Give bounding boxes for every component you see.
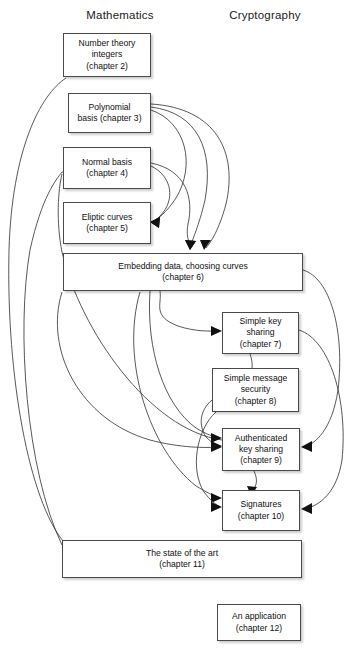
arrow-head-icon bbox=[301, 503, 312, 514]
node-label-ch8: Simple message security (chapter 8) bbox=[224, 373, 288, 407]
node-label-ch3: Polynomial basis (chapter 3) bbox=[77, 102, 141, 124]
node-label-ch9: Authenticated key sharing (chapter 9) bbox=[235, 433, 288, 467]
edge-ch7-to-ch10 bbox=[299, 330, 343, 514]
node-box-ch11[interactable]: The state of the art (chapter 11) bbox=[62, 540, 302, 578]
arrow-head-icon bbox=[185, 240, 196, 250]
node-box-ch10[interactable]: Signatures (chapter 10) bbox=[222, 490, 300, 531]
arrow-head-icon bbox=[211, 326, 222, 336]
node-box-ch2[interactable]: Number theory integers (chapter 2) bbox=[63, 33, 151, 77]
node-label-ch12: An application (chapter 12) bbox=[232, 611, 286, 633]
arrow-head-icon bbox=[211, 433, 222, 443]
edge-ch4-to-ch6 bbox=[151, 163, 196, 250]
edge-ch6-to-ch10 bbox=[134, 292, 222, 503]
arrow-head-icon bbox=[200, 240, 211, 250]
node-label-ch7: Simple key sharing (chapter 7) bbox=[239, 316, 281, 350]
node-box-ch12[interactable]: An application (chapter 12) bbox=[217, 604, 301, 641]
edge-ch6-to-ch9c bbox=[57, 292, 222, 452]
node-box-ch9[interactable]: Authenticated key sharing (chapter 9) bbox=[222, 428, 300, 471]
node-label-ch10: Signatures (chapter 10) bbox=[238, 499, 284, 521]
column-header-math: Mathematics bbox=[50, 9, 190, 21]
node-label-ch5: Eliptic curves (chapter 5) bbox=[82, 212, 133, 234]
arrow-head-icon bbox=[211, 502, 222, 512]
node-label-ch11: The state of the art (chapter 11) bbox=[146, 548, 218, 570]
edge-ch3-to-ch6b bbox=[151, 104, 229, 250]
node-box-ch3[interactable]: Polynomial basis (chapter 3) bbox=[68, 93, 151, 133]
edge-ch6-to-ch9b bbox=[149, 291, 222, 443]
node-label-ch2: Number theory integers (chapter 2) bbox=[79, 38, 136, 72]
node-box-ch7[interactable]: Simple key sharing (chapter 7) bbox=[222, 312, 299, 354]
node-box-ch8[interactable]: Simple message security (chapter 8) bbox=[212, 368, 299, 412]
node-label-ch4: Normal basis (chapter 4) bbox=[82, 157, 132, 179]
node-box-ch5[interactable]: Eliptic curves (chapter 5) bbox=[63, 202, 151, 244]
node-label-ch6: Embedding data, choosing curves (chapter… bbox=[118, 261, 247, 283]
edge-ch11-to-ch2 bbox=[9, 78, 66, 541]
edge-ch6-to-ch9 bbox=[301, 270, 340, 452]
diagram-canvas: MathematicsCryptography Number theory in… bbox=[0, 0, 363, 653]
arrow-head-icon bbox=[150, 217, 160, 228]
edge-ch6-to-ch7 bbox=[160, 291, 222, 336]
column-header-crypto: Cryptography bbox=[195, 9, 335, 21]
node-box-ch6[interactable]: Embedding data, choosing curves (chapter… bbox=[63, 253, 303, 291]
node-box-ch4[interactable]: Normal basis (chapter 4) bbox=[63, 147, 151, 189]
edge-ch4-to-ch5 bbox=[150, 166, 170, 228]
arrow-head-icon bbox=[301, 441, 312, 452]
